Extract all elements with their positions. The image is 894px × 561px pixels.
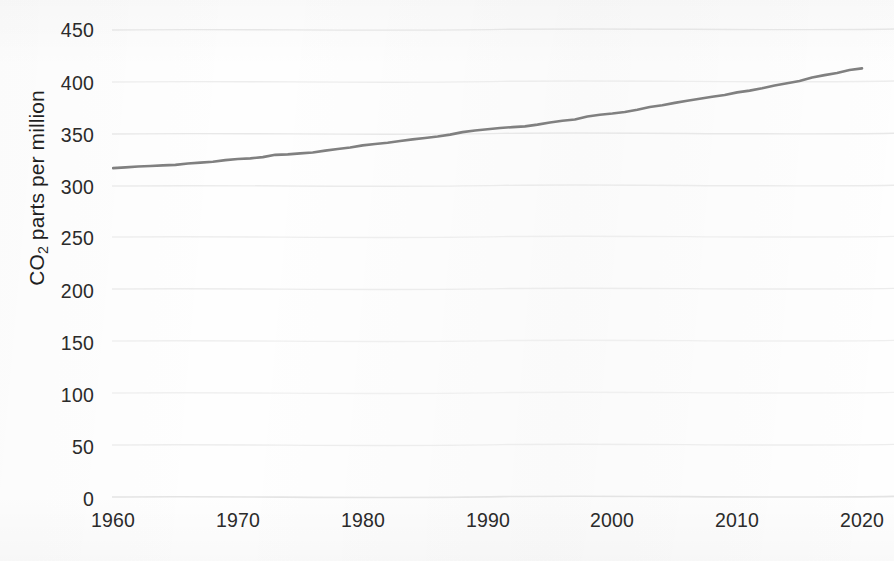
y-axis-tick-450: 450 (61, 21, 94, 41)
y-axis-tick-100: 100 (61, 386, 94, 406)
y-axis-tick-50: 50 (72, 438, 94, 458)
y-axis-tick-200: 200 (61, 282, 94, 302)
gridline-400 (112, 81, 894, 82)
y-axis-tick-350: 350 (61, 126, 94, 146)
gridline-100 (112, 392, 894, 393)
co2-series-line (113, 68, 862, 168)
x-axis-tick-1960: 1960 (91, 511, 135, 531)
chart-svg (112, 24, 894, 504)
y-axis-tick-300: 300 (61, 178, 94, 198)
y-axis-tick-0: 0 (83, 490, 94, 510)
x-axis-tick-1990: 1990 (466, 511, 510, 531)
gridline-250 (112, 236, 894, 237)
co2-concentration-chart-figure: CO2 parts per million 450 400 350 300 25… (0, 0, 894, 561)
y-axis-tick-250: 250 (61, 229, 94, 249)
x-axis-tick-2000: 2000 (590, 511, 634, 531)
gridline-200 (112, 288, 894, 289)
x-axis-tick-1970: 1970 (216, 511, 260, 531)
gridline-0 (112, 496, 894, 497)
gridline-350 (112, 133, 894, 134)
gridline-450 (112, 29, 894, 30)
x-axis-tick-labels: 1960 1970 1980 1990 2000 2010 2020 (0, 511, 894, 539)
x-axis-tick-2020: 2020 (840, 511, 884, 531)
x-axis-tick-2010: 2010 (715, 511, 759, 531)
y-axis-tick-400: 400 (61, 74, 94, 94)
gridline-300 (112, 185, 894, 186)
y-axis-tick-150: 150 (61, 334, 94, 354)
gridlines (112, 29, 894, 498)
x-axis-tick-1980: 1980 (341, 511, 385, 531)
y-axis-tick-labels: 450 400 350 300 250 200 150 100 50 0 (26, 0, 94, 561)
gridline-150 (112, 340, 894, 341)
gridline-50 (112, 444, 894, 445)
plot-area (112, 24, 894, 504)
